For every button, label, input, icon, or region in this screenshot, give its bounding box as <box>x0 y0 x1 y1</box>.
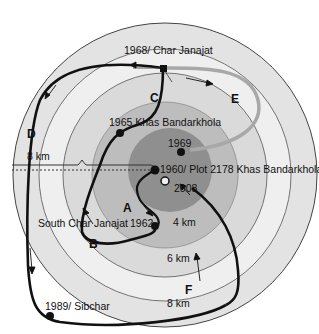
marker-1969 <box>177 148 185 156</box>
marker-1965 <box>116 129 124 137</box>
label-path-b: B <box>89 237 98 251</box>
label-1962: 1962 <box>130 217 154 229</box>
diagram-canvas: 1968/ Char Janajat 1965 Khas Bandarkhola… <box>0 0 319 334</box>
label-distance-4km: 4 km <box>173 216 196 228</box>
marker-1989 <box>46 312 54 320</box>
marker-2008 <box>161 177 169 185</box>
label-1965: 1965 Khas Bandarkhola <box>109 116 221 128</box>
label-1969: 1969 <box>168 137 192 149</box>
marker-1960 <box>151 166 160 175</box>
label-2008: 2008 <box>174 182 198 194</box>
label-distance-8km-left: 8 km <box>27 150 50 162</box>
label-path-d: D <box>27 127 36 141</box>
label-path-c: C <box>150 91 159 105</box>
label-1960: 1960/ Plot 2178 Khas Bandarkhola <box>160 163 319 175</box>
label-path-e: E <box>231 92 239 106</box>
label-path-f: F <box>185 283 192 297</box>
label-distance-8km-bottom: 8 km <box>167 297 190 309</box>
label-path-a: A <box>123 201 132 215</box>
label-sibchar: 1989/ Sibchar <box>45 300 110 312</box>
label-char-janajat: 1968/ Char Janajat <box>124 44 213 56</box>
migration-diagram: 1968/ Char Janajat 1965 Khas Bandarkhola… <box>0 0 319 334</box>
label-south-char: South Char Janajat <box>38 217 128 229</box>
marker-char-janajat <box>160 65 167 72</box>
label-distance-6km: 6 km <box>167 252 190 264</box>
